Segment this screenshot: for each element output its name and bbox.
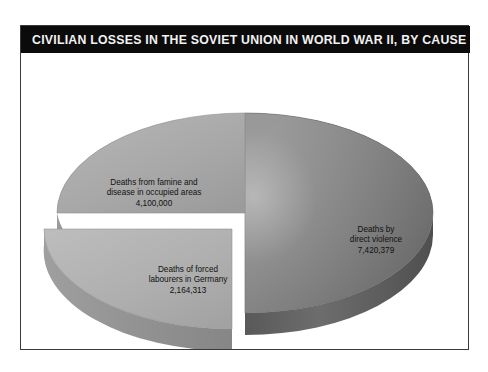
slice-famine-disease [57, 113, 245, 213]
pie-chart-graphic [21, 53, 467, 349]
page-title: CIVILIAN LOSSES IN THE SOVIET UNION IN W… [32, 33, 467, 47]
slice-forced-labourers [44, 229, 232, 349]
pie-chart-plot-area: Deaths from famine and disease in occupi… [21, 53, 467, 349]
chart-title-bar: CIVILIAN LOSSES IN THE SOVIET UNION IN W… [21, 26, 470, 53]
chart-frame: CIVILIAN LOSSES IN THE SOVIET UNION IN W… [20, 25, 469, 350]
chart-screenshot: CIVILIAN LOSSES IN THE SOVIET UNION IN W… [0, 0, 488, 372]
